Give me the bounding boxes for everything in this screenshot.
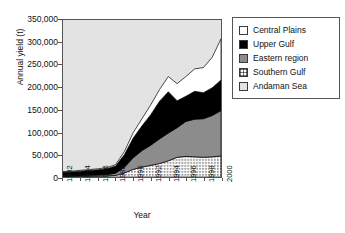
legend-label: Eastern region — [253, 53, 308, 63]
x-axis-tick — [62, 178, 63, 181]
x-axis-tick — [133, 178, 134, 181]
x-axis-tick — [98, 178, 99, 181]
chart-figure: Annual yield (t) 350,000300,000250,00020… — [0, 0, 345, 233]
legend-item: Southern Gulf — [239, 65, 335, 79]
x-axis-tick-label: 1996 — [189, 165, 198, 182]
x-axis-tick — [151, 178, 152, 181]
legend-item: Eastern region — [239, 51, 335, 65]
legend-swatch — [239, 82, 248, 91]
x-axis-tick — [115, 178, 116, 181]
legend-item: Central Plains — [239, 23, 335, 37]
x-axis-tick-label: 1994 — [172, 165, 181, 182]
x-axis-tick — [169, 178, 170, 181]
x-axis-tick — [204, 178, 205, 181]
x-axis-tick-label: 1998 — [207, 165, 216, 182]
x-axis-tick-label: 1982 — [65, 165, 74, 182]
x-axis-tick-label: 1992 — [154, 165, 163, 182]
legend-swatch — [239, 54, 248, 63]
legend-label: Southern Gulf — [253, 67, 305, 77]
x-axis-tick-label: 1984 — [83, 165, 92, 182]
x-axis-tick — [80, 178, 81, 181]
x-axis-tick — [186, 178, 187, 181]
x-axis-tick-label: 1988 — [118, 165, 127, 182]
x-axis-tick — [222, 178, 223, 181]
legend-label: Central Plains — [253, 25, 306, 35]
legend-label: Andaman Sea — [253, 81, 307, 91]
x-axis-tick-label: 1986 — [101, 165, 110, 182]
legend-swatch — [239, 40, 248, 49]
legend-label: Upper Gulf — [253, 39, 294, 49]
x-axis-title: Year — [62, 210, 222, 220]
x-axis-tick-label: 1990 — [136, 165, 145, 182]
legend-item: Andaman Sea — [239, 79, 335, 93]
legend-swatch — [239, 26, 248, 35]
chart-legend: Central PlainsUpper GulfEastern regionSo… — [232, 17, 340, 99]
legend-swatch — [239, 68, 248, 77]
legend-item: Upper Gulf — [239, 37, 335, 51]
x-axis-tick-label: 2000 — [225, 165, 234, 182]
